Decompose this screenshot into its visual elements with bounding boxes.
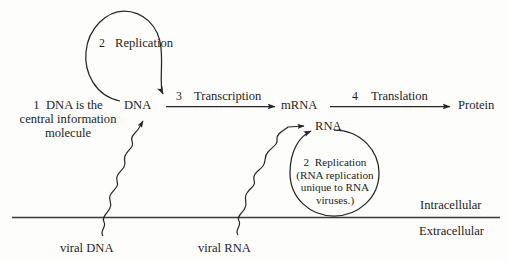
step1-line2: central information bbox=[20, 112, 117, 126]
node-mrna: mRNA bbox=[281, 98, 317, 112]
compartment-extracellular-label: Extracellular bbox=[419, 224, 484, 238]
node-dna: DNA bbox=[124, 98, 151, 112]
step2-number: 2 bbox=[99, 37, 105, 50]
dna-replication-loop-arrow bbox=[86, 11, 163, 101]
step3-number: 3 bbox=[176, 90, 182, 103]
step1-line1: DNA is the bbox=[46, 98, 103, 112]
step3-label: Transcription bbox=[194, 89, 261, 103]
viral-rna-label: viral RNA bbox=[198, 241, 251, 255]
step1-line3: molecule bbox=[45, 126, 91, 140]
rna-rep-note-line1: (RNA replication bbox=[296, 169, 373, 181]
step1-annotation: 1 DNA is the central information molecul… bbox=[8, 98, 128, 140]
step4-number: 4 bbox=[352, 90, 358, 103]
step2-label: Replication bbox=[115, 36, 173, 50]
rna-rep-number: 2 bbox=[304, 156, 310, 168]
rna-replication-annotation: 2 Replication (RNA replication unique to… bbox=[289, 156, 381, 206]
rna-rep-note-line2: unique to RNA bbox=[301, 181, 369, 193]
node-rna: RNA bbox=[315, 119, 342, 133]
diagram-canvas: 1 DNA is the central information molecul… bbox=[0, 0, 508, 262]
step4-label: Translation bbox=[371, 89, 428, 103]
node-protein: Protein bbox=[458, 98, 494, 112]
rna-rep-note-line3: viruses.) bbox=[316, 194, 354, 206]
step1-number: 1 bbox=[33, 98, 39, 112]
rna-rep-label: Replication bbox=[315, 156, 367, 168]
viral-dna-label: viral DNA bbox=[60, 241, 114, 255]
compartment-intracellular-label: Intracellular bbox=[420, 198, 482, 212]
